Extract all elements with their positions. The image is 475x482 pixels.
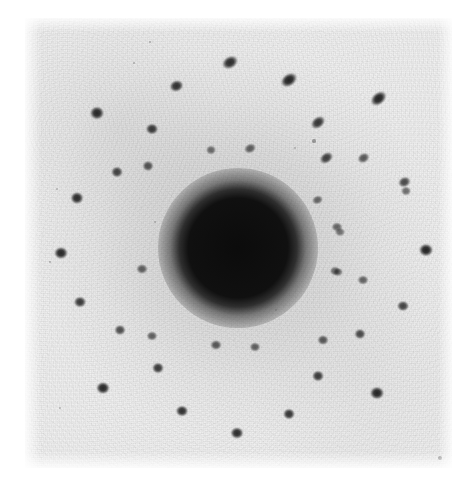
diffraction-spot <box>255 46 324 113</box>
emulsion-speck <box>294 147 297 150</box>
diffraction-spot <box>402 227 450 273</box>
diffraction-spot <box>101 311 140 348</box>
emulsion-speck <box>312 139 315 142</box>
emulsion-speck <box>59 407 62 410</box>
emulsion-tone-mottle <box>25 18 452 468</box>
diffraction-spot <box>383 287 423 325</box>
diffraction-spot <box>269 394 310 434</box>
diffraction-spot <box>131 109 173 150</box>
diffraction-spot <box>318 254 353 287</box>
diffraction-spot <box>59 282 101 323</box>
emulsion-tone-center <box>25 18 452 468</box>
diffraction-spot <box>321 256 354 288</box>
diffraction-spot <box>345 263 382 298</box>
diffraction-spot <box>161 391 203 432</box>
diffraction-spot <box>287 92 349 153</box>
plate-edge-falloff <box>25 18 452 468</box>
diffraction-spot <box>337 133 389 184</box>
diffraction-spot <box>73 89 122 136</box>
diffraction-spot <box>378 156 431 208</box>
emulsion-speck <box>56 188 59 191</box>
emulsion-speck <box>149 41 152 44</box>
diffraction-spot <box>237 330 273 365</box>
emulsion-speck <box>275 309 278 312</box>
diffraction-spot <box>138 348 179 388</box>
direct-beam-disc <box>158 168 318 328</box>
emulsion-speck <box>133 62 135 64</box>
diffraction-spot <box>123 251 161 287</box>
diffraction-spot <box>148 58 205 113</box>
diffraction-spot <box>298 356 339 396</box>
diffraction-pattern-image <box>0 0 475 482</box>
diffraction-spot <box>345 64 413 131</box>
diffraction-spot <box>134 319 170 354</box>
diffraction-spot <box>295 179 338 221</box>
diffraction-spot <box>197 30 262 94</box>
diffraction-spot <box>80 366 126 411</box>
film-grain-speckle-layer <box>25 18 452 468</box>
diffraction-spot <box>304 322 341 358</box>
diffraction-spot <box>194 133 229 166</box>
diffraction-spot <box>215 412 259 454</box>
diffraction-spot <box>226 124 275 171</box>
photographic-plate <box>25 18 452 468</box>
diffraction-spot <box>38 231 84 276</box>
emulsion-speck <box>438 456 442 460</box>
diffraction-spot <box>129 147 167 184</box>
diffraction-spot <box>298 130 355 186</box>
diffraction-spot <box>97 152 138 192</box>
film-grain-layer <box>25 18 452 468</box>
emulsion-speck <box>49 261 52 264</box>
diffraction-spot <box>319 210 354 243</box>
diffraction-spot <box>55 176 100 220</box>
emulsion-speck <box>154 221 156 223</box>
diffraction-spot <box>341 315 380 352</box>
diffraction-spot <box>353 370 401 416</box>
diffraction-spot <box>323 216 357 248</box>
diffraction-spot <box>197 327 235 363</box>
diffraction-spot <box>389 174 424 207</box>
